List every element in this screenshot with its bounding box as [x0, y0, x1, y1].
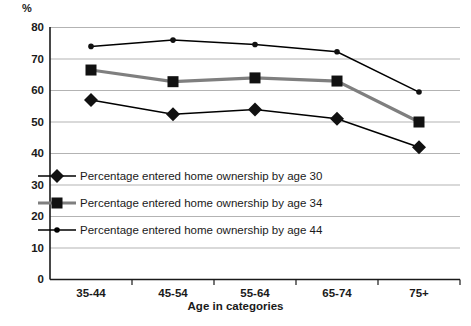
chart-canvas — [0, 0, 471, 326]
gridlines — [50, 28, 460, 249]
x-tick-65-74: 65-74 — [297, 287, 377, 299]
x-tick-55-64: 55-64 — [215, 287, 295, 299]
x-tick-35-44: 35-44 — [51, 287, 131, 299]
diamond-marker — [50, 169, 64, 183]
series-by-age-44 — [88, 37, 422, 95]
x-tick-45-54: 45-54 — [133, 287, 213, 299]
series-by-age-34 — [86, 65, 425, 128]
circle-marker — [54, 227, 60, 233]
legend-item-by-age-44: Percentage entered home ownership by age… — [80, 224, 322, 236]
x-axis-title: Age in categories — [0, 300, 471, 312]
x-tick-75-plus: 75+ — [379, 287, 459, 299]
line-chart: % 80 70 60 50 40 30 20 10 0 — [0, 0, 471, 326]
legend-markers — [38, 169, 76, 233]
legend-item-by-age-30: Percentage entered home ownership by age… — [80, 170, 322, 182]
square-marker — [52, 198, 63, 209]
x-axis-ticks — [132, 280, 460, 286]
legend-item-by-age-34: Percentage entered home ownership by age… — [80, 197, 322, 209]
series-by-age-30 — [84, 93, 426, 154]
